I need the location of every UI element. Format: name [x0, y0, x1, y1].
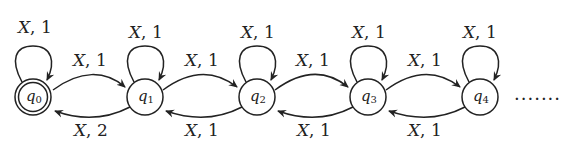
self-loop-q1: X, 1 — [127, 22, 164, 82]
self-loop-q3: X, 1 — [350, 22, 387, 82]
edge-q1-q0: X, 2 — [55, 107, 130, 140]
self-loop-q0: X, 1 — [15, 17, 51, 82]
edge-q3-q4: X, 1 — [386, 50, 460, 90]
self-loop-label-q0: X, 1 — [16, 17, 52, 37]
state-q4: q4 — [462, 79, 498, 115]
self-loop-label-q1: X, 1 — [127, 22, 163, 42]
edge-q4-q3: X, 1 — [389, 107, 465, 140]
self-loop-q2: X, 1 — [239, 22, 276, 82]
edge-label-q3-q2: X, 1 — [295, 120, 331, 140]
edge-label-q0-q1: X, 1 — [71, 50, 107, 70]
edge-label-q3-q4: X, 1 — [406, 50, 442, 70]
edge-label-q2-q1: X, 1 — [183, 120, 219, 140]
edge-label-q2-q3: X, 1 — [294, 50, 330, 70]
edge-q1-q2: X, 1 — [163, 50, 237, 90]
edge-q2-q1: X, 1 — [166, 107, 242, 140]
self-loop-label-q3: X, 1 — [350, 22, 386, 42]
edge-q3-q2: X, 1 — [278, 107, 353, 140]
state-q1: q1 — [127, 79, 163, 115]
edge-label-q1-q2: X, 1 — [183, 50, 219, 70]
state-q0: q0 — [15, 79, 51, 115]
self-loop-q4: X, 1 — [461, 22, 499, 82]
state-q2: q2 — [239, 79, 275, 115]
state-diagram: X, 1 X, 1 X, 1 X, 1 X, 1 X, 1 X, 1 X, 1 … — [0, 0, 568, 146]
continuation-ellipsis: ....... — [514, 83, 561, 104]
self-loop-label-q2: X, 1 — [239, 22, 275, 42]
self-loop-label-q4: X, 1 — [461, 22, 497, 42]
state-q3: q3 — [350, 79, 386, 115]
edge-q2-q3: X, 1 — [275, 50, 348, 90]
edge-label-q4-q3: X, 1 — [406, 120, 442, 140]
edge-label-q1-q0: X, 2 — [72, 120, 108, 140]
edge-q0-q1: X, 1 — [53, 50, 125, 90]
